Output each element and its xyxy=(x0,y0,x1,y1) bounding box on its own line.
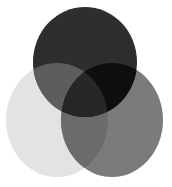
venn-diagram xyxy=(0,0,172,187)
